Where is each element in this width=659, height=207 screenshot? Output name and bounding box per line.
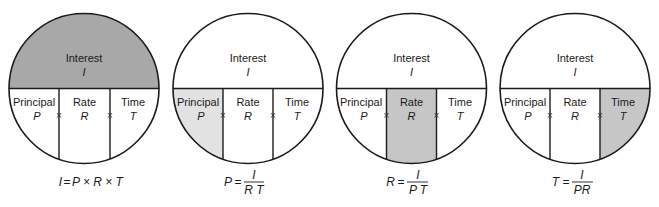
rate-variable: R [81,110,89,122]
multiply-sign: × [270,110,276,121]
rate-label: Rate [236,96,259,108]
principal-variable: P [197,110,205,122]
multiply-sign: × [107,110,113,121]
rate-label: Rate [563,96,586,108]
interest-variable: I [246,66,249,78]
formula-rhs: P × R × T [72,175,125,189]
multiply-sign: × [220,110,226,121]
formula-equals: = [397,175,404,189]
diagram-principal: Interest I Principal P Rate R Time T × ×… [170,14,323,198]
formula-denominator: R T [244,183,265,197]
principal-variable: P [33,110,41,122]
principal-variable: P [360,110,368,122]
formula-equals: = [234,175,241,189]
interest-label: Interest [230,52,267,64]
multiply-sign: × [597,110,603,121]
formula-denominator: PR [574,183,591,197]
formula-numerator: I [416,168,420,182]
multiply-sign: × [384,110,390,121]
formula-lhs: T [552,175,561,189]
diagram-time: Interest I Principal P Rate R Time T × ×… [500,14,659,198]
diagram-interest: Interest I Principal P Rate R Time T × ×… [0,0,170,189]
principal-label: Principal [13,96,55,108]
principal-label: Principal [504,96,546,108]
rate-label: Rate [73,96,96,108]
multiply-sign: × [434,110,440,121]
principal-label: Principal [177,96,219,108]
rate-variable: R [571,110,579,122]
interest-label: Interest [393,52,430,64]
formula-lhs: P [224,175,232,189]
time-variable: T [130,110,138,122]
interest-variable: I [82,66,85,78]
time-label: Time [285,96,309,108]
interest-formula-diagrams: Interest I Principal P Rate R Time T × ×… [0,0,659,207]
formula-equals: = [63,175,70,189]
formula-lhs: R [386,175,395,189]
interest-variable: I [573,66,576,78]
rate-variable: R [244,110,252,122]
principal-label: Principal [340,96,382,108]
formula-equals: = [562,175,569,189]
rate-variable: R [408,110,416,122]
time-variable: T [457,110,465,122]
interest-variable: I [410,66,413,78]
formula-denominator: P T [409,183,429,197]
rate-label: Rate [400,96,423,108]
multiply-sign: × [547,110,553,121]
interest-label: Interest [557,52,594,64]
multiply-sign: × [56,110,62,121]
time-variable: T [294,110,302,122]
diagram-rate: Interest I Principal P Rate R Time T × ×… [337,14,487,198]
formula-numerator: I [580,168,584,182]
time-label: Time [121,96,145,108]
formula-lhs: I [59,175,63,189]
time-label: Time [611,96,635,108]
formula-rate: R = I P T [386,168,428,197]
formula-time: T = I PR [552,168,593,197]
principal-variable: P [524,110,532,122]
time-label: Time [448,96,472,108]
formula-principal: P = I R T [224,168,265,197]
formula-interest: I = P × R × T [59,175,125,189]
formula-numerator: I [252,168,256,182]
interest-label: Interest [66,52,103,64]
